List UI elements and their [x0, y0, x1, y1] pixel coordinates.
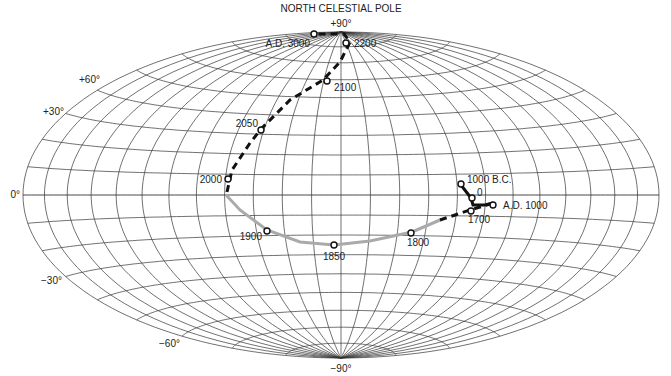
celestial-pole-precession-diagram: A.D. 30002200210020502000190018501800170…: [0, 0, 671, 376]
date-marker: [331, 242, 337, 248]
date-label: 0: [477, 187, 483, 198]
precession-path: [227, 34, 493, 245]
date-marker: [324, 78, 330, 84]
date-label: A.D. 1000: [503, 200, 548, 211]
date-marker: [490, 202, 496, 208]
date-label: 2050: [236, 118, 259, 129]
date-label: 2000: [200, 174, 223, 185]
date-label: 2100: [334, 82, 357, 93]
latitude-label: −60°: [159, 338, 180, 349]
latitude-label: +30°: [43, 106, 64, 117]
date-marker: [311, 31, 317, 37]
latitude-label: −30°: [41, 275, 62, 286]
latitude-label: +60°: [79, 74, 100, 85]
dashed-path-future: [227, 34, 350, 192]
date-marker: [225, 176, 231, 182]
date-label: 2200: [354, 38, 377, 49]
latitude-label: 0°: [10, 189, 20, 200]
date-marker: [258, 127, 264, 133]
date-label: 1850: [323, 251, 346, 262]
latitude-labels: +90°+60°+30°0°−30°−60°−90°: [10, 18, 351, 374]
date-label: 1900: [240, 231, 263, 242]
date-markers: A.D. 30002200210020502000190018501800170…: [200, 31, 548, 262]
date-label: 1000 B.C.: [467, 174, 511, 185]
date-marker: [343, 40, 349, 46]
date-label: A.D. 3000: [266, 38, 311, 49]
coordinate-grid: [23, 32, 659, 358]
date-marker: [264, 228, 270, 234]
date-marker: [469, 195, 475, 201]
diagram-title: NORTH CELESTIAL POLE: [280, 3, 401, 14]
date-marker: [458, 181, 464, 187]
latitude-label: +90°: [331, 18, 352, 29]
latitude-label: −90°: [331, 363, 352, 374]
date-label: 1800: [407, 237, 430, 248]
date-label: 1700: [468, 214, 491, 225]
date-marker: [408, 230, 414, 236]
